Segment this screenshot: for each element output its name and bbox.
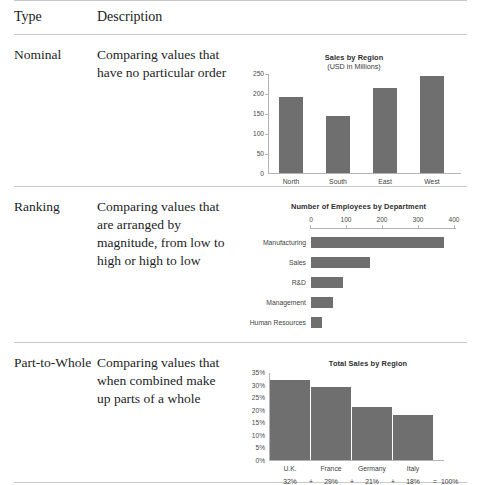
- chart2-bar-management: [311, 297, 333, 308]
- row-description-nominal: Comparing values that have no particular…: [97, 46, 230, 82]
- chart2-ytick-human-resources: Human Resources: [234, 319, 306, 326]
- row-chart-cell-nominal: Sales by Region (USD in Millions) 250 20…: [230, 46, 483, 56]
- row-type-nominal: Nominal: [0, 46, 97, 64]
- chart3-xtick-germany: Germany: [354, 465, 390, 472]
- chart2-plot-area: 0 100 200 300 400 Manufact: [310, 228, 454, 328]
- chart3-ytick-5: 5%: [245, 444, 265, 451]
- chart3-ytick-35: 35%: [245, 369, 265, 376]
- chart1-ytick-mark-250: [265, 74, 268, 75]
- chart2-xtick-mark-0: [310, 225, 311, 228]
- chart1-ytick-mark-50: [265, 154, 268, 155]
- chart1-xtick-west: West: [414, 178, 450, 185]
- chart3-xtick-italy: Italy: [395, 465, 431, 472]
- chart2-ytick-manufacturing: Manufacturing: [234, 239, 306, 246]
- chart3-bar-germany: [352, 407, 392, 460]
- table-row: Nominal Comparing values that have no pa…: [0, 35, 483, 186]
- chart2-ytick-sales: Sales: [234, 259, 306, 266]
- chart1-xtick-north: North: [273, 178, 309, 185]
- chart1-bar-south: [326, 116, 350, 173]
- chart3-x-axis: [269, 460, 444, 461]
- row-type-ranking: Ranking: [0, 198, 97, 216]
- chart1-y-axis: [268, 74, 269, 174]
- chart1-ytick-200: 200: [242, 90, 264, 97]
- chart2-bar-rd: [311, 277, 343, 288]
- row-type-part-to-whole: Part-to-Whole: [0, 354, 97, 372]
- row-chart-cell-ranking: Number of Employees by Department 0 100 …: [230, 198, 483, 208]
- chart1-plot-area: 250 200 150 100 50 0 North: [268, 74, 448, 174]
- chart1-ytick-mark-100: [265, 134, 268, 135]
- chart2-xtick-0: 0: [305, 216, 317, 223]
- chart3-title: Total Sales by Region: [235, 359, 473, 368]
- chart3-value-italy: 18%: [395, 478, 431, 485]
- row-chart-cell-part-to-whole: Total Sales by Region 35% 30% 25% 20% 15…: [230, 354, 483, 364]
- chart1-x-axis: [268, 173, 461, 174]
- chart-total-sales-by-region: Total Sales by Region 35% 30% 25% 20% 15…: [235, 359, 473, 483]
- chart2-bar-human-resources: [311, 317, 322, 328]
- chart1-ytick-150: 150: [242, 110, 264, 117]
- chart1-ytick-100: 100: [242, 130, 264, 137]
- chart2-xtick-mark-100: [346, 225, 347, 228]
- chart1-xtick-south: South: [320, 178, 356, 185]
- chart2-xtick-mark-400: [454, 225, 455, 228]
- chart2-title: Number of Employees by Department: [235, 202, 473, 211]
- chart2-bar-manufacturing: [311, 237, 444, 248]
- chart2-xtick-100: 100: [340, 216, 352, 223]
- column-header-type: Type: [0, 8, 97, 26]
- chart3-ytick-10: 10%: [245, 432, 265, 439]
- row-description-part-to-whole: Comparing values that when combined make…: [97, 354, 230, 408]
- chart2-x-axis: [310, 228, 456, 229]
- chart1-subtitle: (USD in Millions): [235, 62, 473, 71]
- chart1-bar-west: [420, 76, 444, 173]
- chart3-ytick-25: 25%: [245, 394, 265, 401]
- chart2-ytick-rd: R&D: [234, 279, 306, 286]
- chart2-xtick-400: 400: [448, 216, 460, 223]
- chart1-ytick-50: 50: [242, 150, 264, 157]
- chart3-xtick-france: France: [313, 465, 349, 472]
- chart1-bar-east: [373, 88, 397, 173]
- chart3-ytick-0: 0%: [245, 457, 265, 464]
- chart3-ytick-15: 15%: [245, 419, 265, 426]
- table-row: Part-to-Whole Comparing values that when…: [0, 343, 483, 482]
- chart-employees-by-department: Number of Employees by Department 0 100 …: [235, 202, 473, 334]
- chart2-xtick-300: 300: [412, 216, 424, 223]
- chart1-title: Sales by Region: [235, 53, 473, 62]
- column-header-example: [230, 8, 483, 18]
- chart1-ytick-0: 0: [242, 170, 264, 177]
- chart3-ytick-30: 30%: [245, 382, 265, 389]
- chart3-bar-france: [311, 387, 351, 460]
- table-header-row: Type Description: [0, 1, 483, 34]
- chart2-ytick-management: Management: [234, 299, 306, 306]
- chart3-ytick-20: 20%: [245, 407, 265, 414]
- chart1-ytick-mark-150: [265, 114, 268, 115]
- chart1-xtick-east: East: [367, 178, 403, 185]
- chart3-bar-italy: [393, 415, 433, 460]
- chart1-bar-north: [279, 97, 303, 173]
- chart2-xtick-mark-300: [418, 225, 419, 228]
- chart3-plot-area: 35% 30% 25% 20% 15% 10% 5% 0% U.K. Franc…: [269, 373, 424, 461]
- chart2-bar-sales: [311, 257, 370, 268]
- chart3-bar-uk: [270, 380, 310, 461]
- chart1-ytick-250: 250: [242, 70, 264, 77]
- comparison-table: Type Description Nominal Comparing value…: [0, 0, 483, 483]
- chart1-ytick-mark-200: [265, 94, 268, 95]
- row-description-ranking: Comparing values that are arranged by ma…: [97, 198, 230, 270]
- column-header-description: Description: [97, 8, 230, 26]
- chart3-xtick-uk: U.K.: [272, 465, 308, 472]
- chart3-total-value: 100%: [441, 478, 471, 485]
- chart2-xtick-200: 200: [376, 216, 388, 223]
- table-row: Ranking Comparing values that are arrang…: [0, 187, 483, 342]
- chart-sales-by-region: Sales by Region (USD in Millions) 250 20…: [235, 53, 473, 181]
- chart2-xtick-mark-200: [382, 225, 383, 228]
